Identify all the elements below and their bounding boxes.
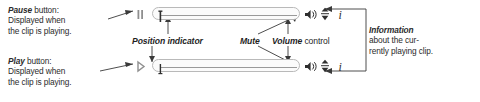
player-toolbar-paused: i [150,6,330,23]
volume-updown-icon [320,59,330,73]
pause-button[interactable] [134,7,147,20]
label-mute-lead: Mute [240,36,260,46]
speaker-mute-icon [304,60,318,73]
callout-pause-line1-rest: button: [32,5,59,15]
speaker-mute-icon [304,8,318,21]
volume-updown-icon [320,7,330,21]
position-indicator-thumb-icon[interactable] [158,9,163,22]
mute-button[interactable] [304,7,318,20]
volume-control[interactable] [320,59,330,73]
callout-play-lead: Play [8,56,25,66]
pause-icon [134,8,147,21]
mute-button[interactable] [304,59,318,72]
position-slider-line [161,15,297,16]
callout-play-button: Play button: Displayed when the clip is … [8,56,72,87]
callout-info-lead: Information [369,25,433,35]
player-toolbar-playing: i [150,58,330,75]
info-i-icon: i [336,8,344,21]
callout-play-line1-rest: button: [25,56,52,66]
position-thumb-glyph [158,10,163,23]
leader-pause [108,11,133,19]
info-i-icon: i [336,60,344,73]
label-volume-control: Volume control [272,36,330,46]
information-button[interactable]: i [336,59,344,72]
callout-pause-line1: Pause button: [8,5,72,15]
callout-information: Information about the cur- rently playin… [369,25,433,56]
callout-play-line3: the clip is playing. [8,77,72,87]
callout-play-line2: Displayed when [8,66,72,76]
callout-info-line3: rently playing clip. [369,46,433,56]
label-position-indicator: Position indicator [132,36,203,46]
play-icon [134,60,147,73]
position-slider-track[interactable] [152,7,300,20]
label-position-indicator-lead: Position indicator [132,36,203,46]
arrowhead-pause [125,10,133,15]
callout-info-line2: about the cur- [369,35,433,45]
play-button[interactable] [134,59,147,72]
position-slider-line [161,67,297,68]
position-slider-track[interactable] [152,59,300,72]
callout-pause-line2: Displayed when [8,15,72,25]
leader-play [100,64,133,71]
label-mute: Mute [240,36,260,46]
leader-info-bracket [325,9,366,71]
position-indicator-thumb-icon[interactable] [158,61,163,74]
information-button[interactable]: i [336,7,344,20]
callout-pause-line3: the clip is playing. [8,26,72,36]
svg-text:i: i [339,8,342,21]
arrowhead-play [125,62,133,67]
callout-pause-button: Pause button: Displayed when the clip is… [8,5,72,36]
label-volume-rest: control [302,36,329,46]
callout-pause-lead: Pause [8,5,32,15]
callout-play-line1: Play button: [8,56,72,66]
label-volume-lead: Volume [272,36,302,46]
position-thumb-glyph [158,62,163,75]
volume-control[interactable] [320,7,330,21]
figure-canvas: i [0,0,480,102]
svg-text:i: i [339,60,342,73]
